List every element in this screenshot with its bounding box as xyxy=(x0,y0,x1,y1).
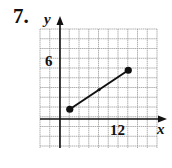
endpoint-marker xyxy=(125,67,132,74)
y-axis-label: y xyxy=(42,11,51,27)
x-tick-label: 12 xyxy=(110,122,125,138)
y-axis-arrow-icon xyxy=(57,16,64,25)
line-segment-group xyxy=(66,67,132,113)
axes xyxy=(40,16,167,148)
y-tick-label: 6 xyxy=(45,53,53,69)
midpoint-marker xyxy=(97,88,100,91)
x-axis-label: x xyxy=(156,121,165,137)
endpoint-marker xyxy=(66,106,73,113)
coordinate-plane: y x 6 12 xyxy=(0,0,172,168)
